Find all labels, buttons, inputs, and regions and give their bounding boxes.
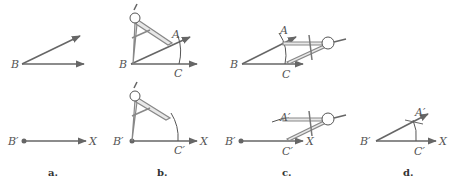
label-vertex-b-prime: B′ [112,135,124,148]
angle-copy-construction-diagram: B B′ X a. B A C B′ C′ X b. [0,0,450,184]
panel-d: B′ A′ C′ X d. [359,106,448,178]
caption-a: a. [48,167,58,178]
label-point-c-prime: C′ [414,145,425,158]
label-point-c-prime: C′ [282,145,293,158]
label-point-c-prime: C′ [174,144,185,157]
label-ray-end-x: X [199,135,209,148]
label-point-a-prime: A′ [279,111,291,124]
panel-a: B B′ X a. [7,36,98,178]
panel-c: B A C B′ A′ C′ X c. [224,24,346,178]
label-vertex-b: B [118,58,127,71]
caption-d: d. [403,167,413,178]
label-vertex-b: B [229,58,238,71]
label-vertex-b-prime: B′ [7,135,19,148]
caption-b: b. [157,167,167,178]
label-point-c: C [174,67,183,80]
label-point-a: A [171,28,180,41]
label-vertex-b-prime: B′ [224,135,236,148]
label-ray-end-x: X [88,135,98,148]
label-point-c: C [282,68,291,81]
label-ray-end-x: X [438,135,448,148]
panel-b: B A C B′ C′ X b. [112,4,209,178]
label-point-a-prime: A′ [414,106,426,119]
label-vertex-b: B [10,58,19,71]
label-vertex-b-prime: B′ [359,135,371,148]
caption-c: c. [282,167,292,178]
label-point-a: A [279,24,288,37]
label-ray-end-x: X [305,135,315,148]
